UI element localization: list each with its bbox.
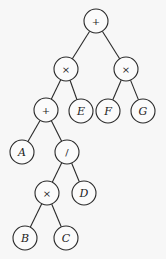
node-label: B bbox=[20, 232, 29, 245]
tree-edge-n10-n12 bbox=[30, 204, 41, 227]
tree-node-operator: / bbox=[55, 140, 79, 164]
tree-edge-n3-n7 bbox=[131, 80, 139, 100]
tree-nodes: +××+EFGA/×DBC bbox=[10, 9, 155, 250]
tree-edge-n10-n13 bbox=[52, 204, 62, 227]
node-label: F bbox=[103, 105, 112, 118]
node-label: × bbox=[122, 64, 130, 75]
tree-node-operand: A bbox=[10, 140, 34, 164]
tree-node-operator: × bbox=[35, 181, 59, 205]
tree-edge-n3-n6 bbox=[113, 80, 122, 100]
tree-node-operand: B bbox=[13, 226, 37, 250]
node-label: A bbox=[17, 146, 26, 159]
node-label: × bbox=[62, 64, 70, 75]
tree-edge-n2-n4 bbox=[51, 80, 60, 99]
tree-node-operator: × bbox=[114, 57, 138, 81]
tree-edge-n9-n11 bbox=[72, 163, 80, 182]
tree-node-operator: + bbox=[34, 98, 58, 122]
tree-edge-n1-n2 bbox=[72, 31, 89, 59]
node-label: C bbox=[62, 232, 71, 245]
node-label: × bbox=[43, 188, 51, 199]
node-label: + bbox=[42, 105, 50, 116]
tree-edge-n4-n9 bbox=[51, 121, 61, 142]
tree-node-operand: E bbox=[69, 99, 93, 123]
tree-edge-n2-n5 bbox=[70, 80, 77, 99]
tree-node-operand: C bbox=[54, 226, 78, 250]
node-label: G bbox=[139, 105, 148, 118]
node-label: D bbox=[79, 187, 89, 200]
tree-node-operand: F bbox=[96, 99, 120, 123]
tree-edge-n9-n10 bbox=[52, 163, 61, 182]
tree-node-operator: × bbox=[54, 57, 78, 81]
tree-edge-n4-n8 bbox=[28, 120, 40, 141]
tree-node-operand: D bbox=[72, 181, 96, 205]
tree-node-operator: + bbox=[84, 9, 108, 33]
tree-node-operand: G bbox=[131, 99, 155, 123]
expression-tree-diagram: +××+EFGA/×DBC bbox=[0, 0, 166, 259]
tree-edge-n1-n3 bbox=[102, 31, 119, 59]
node-label: + bbox=[92, 16, 100, 27]
node-label: E bbox=[76, 105, 85, 118]
